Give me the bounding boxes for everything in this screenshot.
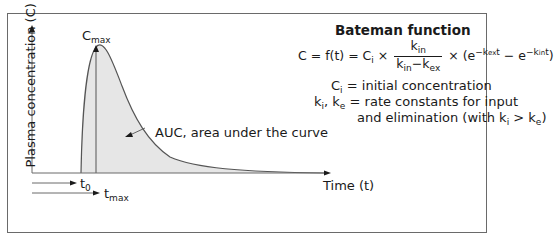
def-k-sub2: e — [340, 101, 346, 111]
definition-ci: Ci = initial concentration — [331, 79, 492, 95]
def-k2-text: and elimination (with k — [357, 110, 507, 125]
exp2-base: −k — [526, 47, 539, 57]
def-ci-symbol: C — [331, 78, 340, 93]
cmax-label: Cmax — [82, 29, 111, 45]
def-k-text: rate constants for input — [365, 94, 518, 109]
def-ci-text: initial concentration — [362, 78, 492, 93]
auc-label: AUC, area under the curve — [155, 126, 328, 139]
def-ci-eq: = — [347, 78, 358, 93]
formula-minus: − e — [500, 48, 526, 63]
formula-lhs-sub: i — [371, 55, 374, 65]
def-k2-mid: > k — [509, 110, 536, 125]
den-base1: k — [396, 56, 403, 71]
formula-lhs: C = f(t) = C — [298, 48, 371, 63]
tmax-arrowhead-icon — [93, 191, 100, 196]
den-sub1: in — [404, 63, 412, 73]
y-axis-label: Plasma concentration (C) — [23, 28, 38, 168]
formula-close: ) — [549, 48, 554, 63]
cmax-sub: max — [91, 35, 111, 45]
x-axis-label: Time (t) — [323, 179, 374, 192]
def-k2-end: ) — [541, 110, 546, 125]
formula-times2: × (e — [448, 48, 475, 63]
cmax-base: C — [82, 28, 91, 43]
def-ci-sub: i — [340, 85, 343, 95]
definition-k: ki, ke = rate constants for input — [314, 95, 518, 111]
exp2: −kint — [526, 47, 549, 57]
auc-area — [81, 45, 325, 173]
x-axis-arrow-icon — [324, 171, 331, 176]
def-k-symbol: k — [314, 94, 322, 109]
fraction-denominator: kin−kex — [394, 57, 442, 73]
den-sub2: ex — [430, 63, 441, 73]
num-base: k — [411, 38, 418, 53]
definition-k-continued: and elimination (with ki > ke) — [357, 111, 546, 127]
t0-label: t0 — [80, 177, 91, 193]
diagram-title: Bateman function — [335, 24, 471, 38]
t0-arrowhead-icon — [70, 181, 77, 186]
tmax-sub: max — [109, 193, 129, 203]
tmax-label: tmax — [104, 187, 129, 203]
den-base2: k — [422, 56, 429, 71]
fraction-numerator: kin — [394, 40, 442, 57]
exp1: −kext — [475, 47, 500, 57]
bateman-formula: C = f(t) = Ci × kin kin−kex × (e−kext − … — [298, 40, 554, 73]
den-minus: − — [412, 56, 422, 71]
def-k-eq: = — [350, 94, 361, 109]
exp1-base: −k — [475, 47, 488, 57]
t0-sub: 0 — [85, 183, 91, 193]
num-sub: in — [418, 45, 426, 55]
formula-fraction: kin kin−kex — [394, 40, 442, 73]
def-k-symbol2: , k — [324, 94, 340, 109]
formula-times: × — [378, 48, 388, 63]
